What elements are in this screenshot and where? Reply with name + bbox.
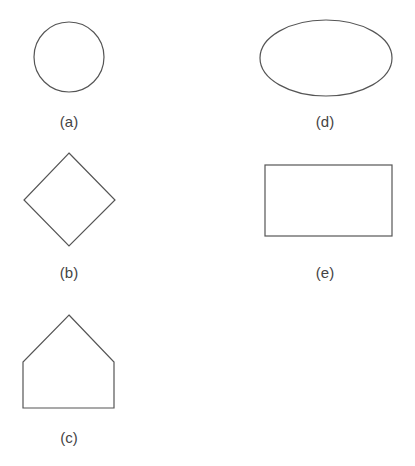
- panel-c: (c): [23, 315, 114, 446]
- panel-label-c: (c): [60, 429, 78, 446]
- panel-label-e: (e): [316, 264, 334, 281]
- panel-d: (d): [260, 20, 392, 130]
- panel-label-d: (d): [316, 113, 334, 130]
- panel-label-a: (a): [60, 113, 78, 130]
- panel-b: (b): [24, 153, 115, 281]
- rectangle-shape: [265, 165, 392, 236]
- diamond-shape: [24, 153, 115, 246]
- ellipse-shape: [260, 20, 392, 96]
- panel-label-b: (b): [60, 264, 78, 281]
- circle-shape: [34, 22, 104, 92]
- panel-a: (a): [34, 22, 104, 130]
- panel-e: (e): [265, 165, 392, 281]
- shapes-diagram: (a) (b) (c) (d) (e): [0, 0, 415, 466]
- pentagon-shape: [23, 315, 114, 408]
